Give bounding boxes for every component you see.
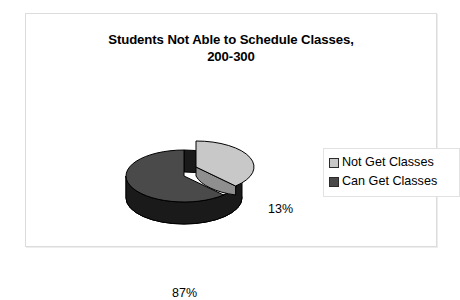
legend-item-can-get-classes[interactable]: Can Get Classes xyxy=(329,172,454,191)
pie-chart-plot-area: 13% 87% xyxy=(86,94,286,239)
legend-swatch-not-get-classes xyxy=(329,158,339,168)
chart-title: Students Not Able to Schedule Classes, 2… xyxy=(26,31,436,65)
data-label-can-get-classes: 87% xyxy=(172,286,197,300)
legend-label-can-get-classes: Can Get Classes xyxy=(342,175,437,188)
legend-item-not-get-classes[interactable]: Not Get Classes xyxy=(329,153,454,172)
chart-title-line-2: 200-300 xyxy=(26,48,436,65)
data-label-not-get-classes: 13% xyxy=(268,202,293,216)
chart-frame: Students Not Able to Schedule Classes, 2… xyxy=(25,13,437,247)
chart-legend: Not Get Classes Can Get Classes xyxy=(323,148,460,197)
legend-swatch-can-get-classes xyxy=(329,177,339,187)
chart-title-line-1: Students Not Able to Schedule Classes, xyxy=(108,32,354,47)
legend-label-not-get-classes: Not Get Classes xyxy=(342,156,434,169)
pie-chart-graphic xyxy=(86,94,286,239)
